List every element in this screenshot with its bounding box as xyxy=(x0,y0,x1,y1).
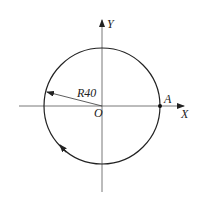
circle-diagram: Y X O R40 A xyxy=(0,0,200,205)
direction-arrow-icon xyxy=(60,145,66,152)
x-axis-label: X xyxy=(180,107,189,121)
origin-label: O xyxy=(94,106,103,120)
point-a-label: A xyxy=(163,92,172,106)
y-axis-label: Y xyxy=(107,17,115,31)
radius-label: R40 xyxy=(76,86,96,100)
point-a-marker xyxy=(158,104,162,108)
